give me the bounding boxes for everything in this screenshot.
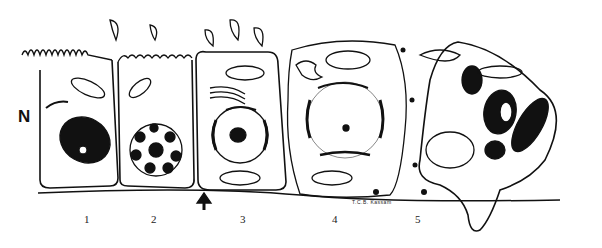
cell-5 bbox=[419, 42, 556, 231]
cell-label-5: 5 bbox=[415, 213, 421, 225]
cell-illustration bbox=[0, 0, 602, 248]
cell-3 bbox=[196, 20, 286, 190]
cell-label-4: 4 bbox=[332, 213, 338, 225]
cell-label-1: 1 bbox=[84, 213, 90, 225]
cell-4 bbox=[288, 41, 407, 197]
cell-label-3: 3 bbox=[240, 213, 246, 225]
arrow-icon bbox=[197, 193, 211, 210]
cell-1 bbox=[22, 50, 119, 188]
artist-signature: T.C.B. Kassam bbox=[352, 199, 392, 205]
cell-2 bbox=[110, 20, 194, 188]
cell-label-2: 2 bbox=[151, 213, 157, 225]
